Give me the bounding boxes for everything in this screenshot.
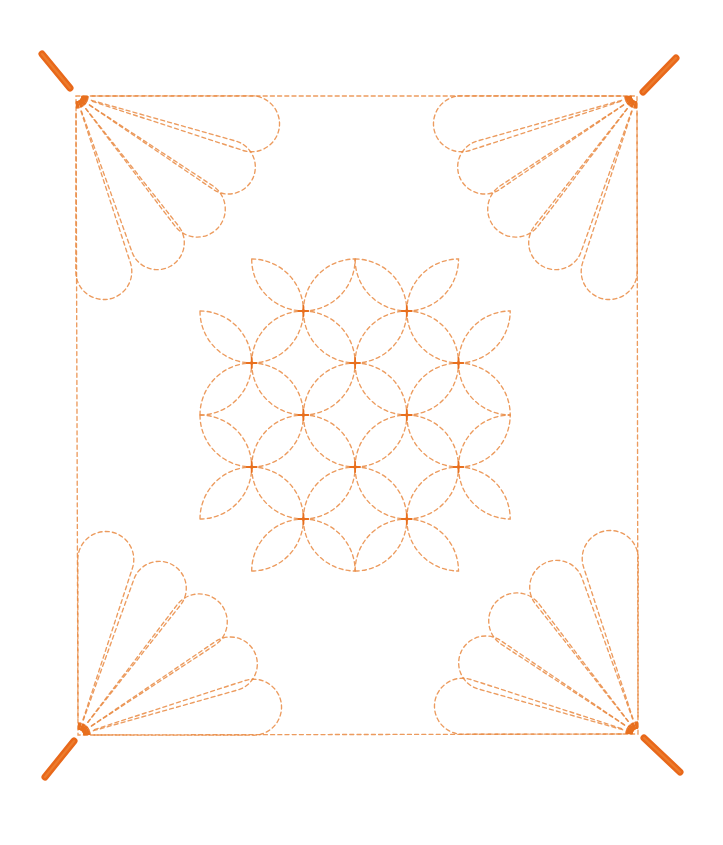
bottom-right-tassel [644,738,680,772]
corner-fans [76,96,638,735]
shippo-lens [200,363,252,415]
cross-knot [298,410,308,420]
cross-knot [402,514,412,524]
shippo-lens [303,467,355,519]
fan-petal [488,105,628,237]
shippo-lens [303,519,355,571]
fan-petal [581,111,637,299]
fan-petal [433,96,621,152]
shippo-lens [407,311,459,363]
shippo-lens [407,415,459,467]
tassel-highlight [644,738,680,772]
shippo-lens [252,259,304,311]
bottom-right-fan [434,530,638,734]
shippo-lens [407,259,459,311]
tassel-highlight [643,58,676,92]
fan-petal [458,100,624,194]
shippo-lens [458,363,510,415]
shippo-lens [252,519,304,571]
top-left-tassel [42,54,70,88]
shippo-lens [355,311,407,363]
shippo-lens [252,467,304,519]
shippo-lens [407,467,459,519]
fan-petal [459,636,625,730]
sashiko-canvas [0,0,723,845]
knot-center [302,309,306,313]
top-right-fan [433,96,637,300]
tassel-highlight [45,741,74,777]
shippo-lens [355,363,407,415]
knot-center [457,361,461,365]
knot-center [405,413,409,417]
shippo-lens [355,467,407,519]
bottom-left-fan [78,531,282,735]
cross-knot [402,410,412,420]
cross-knot [454,358,464,368]
fan-petal [91,96,279,152]
knot-center [302,517,306,521]
cross-knot [298,306,308,316]
shippo-lens [252,311,304,363]
top-right-tassel [643,58,676,92]
shippo-lens [252,415,304,467]
fan-petal [582,530,638,718]
cross-knot [350,462,360,472]
knot-center [405,517,409,521]
fan-petal [89,100,255,194]
knot-center [457,465,461,469]
knot-center [353,465,357,469]
shippo-lens [355,519,407,571]
knot-center [302,413,306,417]
shippo-lens [200,467,252,519]
cross-knot [350,358,360,368]
shippo-lens [303,311,355,363]
shippo-lens [355,259,407,311]
fan-petal [434,678,622,734]
fan-petal [78,531,134,719]
cross-knot [247,358,257,368]
fan-petal [93,679,281,735]
shippo-lens [303,415,355,467]
knot-center [405,309,409,313]
cross-knot [402,306,412,316]
shippo-lens [458,311,510,363]
shippo-lens [252,363,304,415]
shippo-lens [200,415,252,467]
shippo-lens [407,519,459,571]
fan-petal [88,594,228,726]
fan-petal [489,593,629,725]
knot-center [250,465,254,469]
fan-petal [86,105,226,237]
fan-petal [91,637,257,731]
shippo-lens [355,415,407,467]
top-left-fan [76,96,280,300]
fan-petal [76,111,132,299]
center-knots [247,306,464,524]
shippo-lens [303,363,355,415]
shippo-center-pattern [200,259,510,571]
shippo-lens [200,311,252,363]
bottom-left-tassel [45,741,74,777]
square-border-stitching [76,96,638,735]
cross-knot [298,514,308,524]
knot-center [250,361,254,365]
knot-center [353,361,357,365]
border-line [76,96,638,735]
shippo-lens [303,259,355,311]
cross-knot [454,462,464,472]
cross-knot [247,462,257,472]
shippo-lens [407,363,459,415]
tassel-highlight [42,54,70,88]
shippo-lens [458,467,510,519]
shippo-lens [458,415,510,467]
